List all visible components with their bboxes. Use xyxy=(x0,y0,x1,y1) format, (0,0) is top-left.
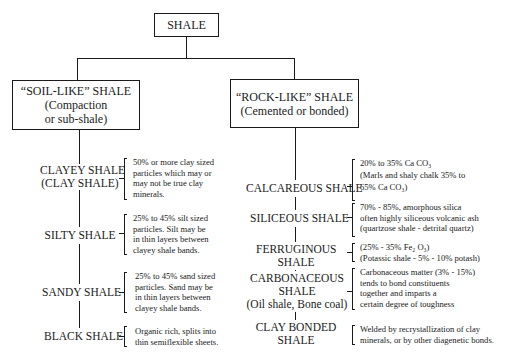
desc-line: minerals. xyxy=(133,189,214,200)
desc-line: particles which may or xyxy=(133,168,214,179)
desc-line: clayey shale bands. xyxy=(135,303,215,314)
connector-to-soil xyxy=(77,58,78,81)
desc-line: (Marls and shaly chalk 35% to xyxy=(360,169,465,181)
clay-bonded-shale-description: Welded by recrystallization of clay mine… xyxy=(360,324,494,345)
siliceous-brace xyxy=(352,203,355,237)
desc-line: minerals, or by other diagenetic bonds. xyxy=(360,335,494,346)
ferruginous-shale-description: (25% - 35% Fe₂ O₃) (Potassic shale - 5% … xyxy=(360,242,480,263)
desc-line: 20% to 35% Ca CO₃ xyxy=(360,157,465,169)
clay-bonded-shale-name: CLAY BONDED xyxy=(254,321,338,334)
desc-line: particles. Sand may be xyxy=(135,282,215,293)
carbonaceous-shale-node: CARBONACEOUS SHALE (Oil shale, Bone coal… xyxy=(246,271,348,312)
ferruginous-brace xyxy=(352,243,355,262)
desc-line: 25% to 45% silt sized xyxy=(133,213,209,224)
desc-line: 50% or more clay sized xyxy=(133,157,214,168)
calcareous-shale-name: CALCAREOUS SHALE xyxy=(246,182,347,195)
carbonaceous-shale-name: CARBONACEOUS xyxy=(246,272,348,285)
desc-line: clayey shale bands. xyxy=(133,245,209,256)
clay-bonded-brace xyxy=(352,325,355,345)
soil-like-subtitle-1: (Compaction xyxy=(45,98,108,112)
clay-bonded-shale-name-2: SHALE xyxy=(254,334,338,347)
root-node: SHALE xyxy=(154,13,219,37)
soil-like-title: “SOIL-LIKE” SHALE xyxy=(21,84,131,98)
siliceous-shale-description: 70% - 85%, amorphous silica often highly… xyxy=(360,202,479,234)
black-shale-name: BLACK SHALE xyxy=(44,330,118,343)
silty-shale-description: 25% to 45% silt sized particles. Silt ma… xyxy=(133,213,209,255)
desc-line: 70% - 85%, amorphous silica xyxy=(360,202,479,213)
clayey-brace xyxy=(124,158,127,200)
clayey-shale-node: CLAYEY SHALE (CLAY SHALE) xyxy=(40,164,120,190)
desc-line: Carbonaceous matter (3% - 15%) xyxy=(360,267,475,278)
desc-line: may not be true clay xyxy=(133,178,214,189)
clayey-shale-alt-name: (CLAY SHALE) xyxy=(40,177,120,190)
calcareous-brace xyxy=(352,159,355,201)
desc-line: often highly siliceous volcanic ash xyxy=(360,213,479,224)
rock-like-node: “ROCK-LIKE” SHALE (Cemented or bonded) xyxy=(230,79,359,128)
connector-root-down xyxy=(186,36,187,58)
desc-line: 65% Ca CO₃) xyxy=(360,181,465,193)
desc-line: together and imparts a xyxy=(360,288,475,299)
soil-like-node: “SOIL-LIKE” SHALE (Compaction or sub-sha… xyxy=(12,80,140,130)
carbonaceous-shale-description: Carbonaceous matter (3% - 15%) tends to … xyxy=(360,267,475,309)
sandy-shale-name: SANDY SHALE xyxy=(42,286,118,299)
siliceous-shale-node: SILICEOUS SHALE xyxy=(250,210,342,227)
desc-line: (25% - 35% Fe₂ O₃) xyxy=(360,242,480,253)
silty-shale-name: SILTY SHALE xyxy=(44,229,116,242)
silty-brace xyxy=(124,214,127,255)
black-brace xyxy=(124,326,127,347)
carbonaceous-shale-name-2: SHALE xyxy=(246,285,348,298)
sandy-brace xyxy=(124,272,127,313)
ferruginous-shale-name: FERRUGINOUS xyxy=(256,243,336,256)
desc-line: particles. Silt may be xyxy=(133,224,209,235)
clayey-shale-description: 50% or more clay sized particles which m… xyxy=(133,157,214,199)
desc-line: (Potassic shale - 5% - 10% potash) xyxy=(360,253,480,264)
desc-line: Welded by recrystallization of clay xyxy=(360,324,494,335)
sandy-shale-description: 25% to 45% sand sized particles. Sand ma… xyxy=(135,271,215,313)
rock-like-title: “ROCK-LIKE” SHALE xyxy=(236,90,353,104)
black-shale-description: Organic rich, splits into thin semiflexi… xyxy=(135,326,218,347)
root-label: SHALE xyxy=(167,18,206,32)
rock-like-subtitle: (Cemented or bonded) xyxy=(241,104,349,118)
calcareous-shale-node: CALCAREOUS SHALE xyxy=(246,180,347,197)
desc-line: 25% to 45% sand sized xyxy=(135,271,215,282)
soil-like-subtitle-2: or sub-shale) xyxy=(45,112,107,126)
clayey-shale-name: CLAYEY SHALE xyxy=(40,164,120,177)
desc-line: (quartzose shale - detrital quartz) xyxy=(360,223,479,234)
clay-bonded-shale-node: CLAY BONDED SHALE xyxy=(254,320,338,353)
connector-horizontal xyxy=(77,58,295,59)
black-shale-node: BLACK SHALE xyxy=(44,328,118,353)
desc-line: Organic rich, splits into xyxy=(135,326,218,337)
connector-to-rock xyxy=(294,58,295,80)
sandy-shale-node: SANDY SHALE xyxy=(42,284,118,301)
carbonaceous-brace xyxy=(352,268,355,310)
desc-line: thin semiflexible sheets. xyxy=(135,337,218,348)
desc-line: tends to bond constituents xyxy=(360,278,475,289)
calcareous-shale-description: 20% to 35% Ca CO₃ (Marls and shaly chalk… xyxy=(360,157,465,193)
silty-shale-node: SILTY SHALE xyxy=(44,227,116,244)
carbonaceous-shale-examples: (Oil shale, Bone coal) xyxy=(246,298,348,311)
ferruginous-shale-node: FERRUGINOUS SHALE xyxy=(256,242,336,270)
desc-line: certain degree of toughness xyxy=(360,299,475,310)
siliceous-shale-name: SILICEOUS SHALE xyxy=(250,212,342,225)
desc-line: in thin layers between xyxy=(133,234,209,245)
ferruginous-shale-name-2: SHALE xyxy=(256,256,336,269)
desc-line: in thin layers between xyxy=(135,292,215,303)
